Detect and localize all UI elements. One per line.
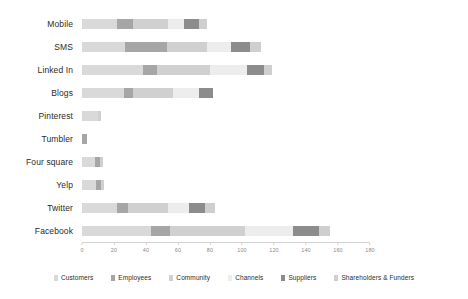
bar-segment[interactable] [98, 111, 101, 121]
bar-segment[interactable] [133, 88, 173, 98]
category-label: Pinterest [39, 111, 73, 121]
bar-segment[interactable] [170, 226, 245, 236]
tick-mark [209, 243, 210, 245]
x-axis-ticks: 020406080100120140160180 [82, 243, 370, 257]
stacked-bar[interactable] [82, 88, 213, 98]
legend-label: Employees [118, 274, 151, 281]
tick-label: 0 [80, 247, 83, 253]
bar-segment[interactable] [173, 88, 199, 98]
stacked-bar[interactable] [82, 134, 87, 144]
tick-label: 40 [143, 247, 149, 253]
bar-segment[interactable] [82, 157, 95, 167]
bar-segment[interactable] [199, 19, 207, 29]
legend-item[interactable]: Customers [54, 274, 93, 281]
legend-item[interactable]: Community [169, 274, 210, 281]
stacked-bar[interactable] [82, 111, 101, 121]
bar-row: Mobile [82, 12, 370, 35]
tick-label: 140 [301, 247, 310, 253]
bar-segment[interactable] [184, 19, 198, 29]
stacked-bar[interactable] [82, 157, 103, 167]
bar-segment[interactable] [167, 42, 207, 52]
tick-label: 120 [269, 247, 278, 253]
x-axis-tick: 120 [269, 243, 278, 253]
x-axis-tick: 60 [175, 243, 181, 253]
bar-segment[interactable] [247, 65, 265, 75]
legend-swatch-icon [281, 275, 285, 281]
stacked-bar[interactable] [82, 226, 330, 236]
stacked-bar[interactable] [82, 180, 104, 190]
bar-segment[interactable] [293, 226, 319, 236]
category-label: Facebook [35, 226, 73, 236]
bar-segment[interactable] [82, 88, 124, 98]
tick-mark [337, 243, 338, 245]
stacked-bar-chart: MobileSMSLinked InBlogsPinterestTumblerF… [0, 0, 468, 299]
bar-row: Pinterest [82, 104, 370, 127]
x-axis-tick: 160 [333, 243, 342, 253]
tick-label: 100 [237, 247, 246, 253]
legend-label: Customers [61, 274, 93, 281]
legend-swatch-icon [111, 275, 115, 281]
legend-label: Community [176, 274, 210, 281]
tick-mark [273, 243, 274, 245]
bar-segment[interactable] [82, 134, 87, 144]
bar-segment[interactable] [82, 19, 117, 29]
legend-item[interactable]: Suppliers [281, 274, 316, 281]
bar-row: Linked In [82, 58, 370, 81]
bar-segment[interactable] [82, 65, 143, 75]
bar-segment[interactable] [205, 203, 215, 213]
bar-segment[interactable] [82, 180, 96, 190]
legend-item[interactable]: Channels [228, 274, 263, 281]
bar-segment[interactable] [151, 226, 170, 236]
bar-segment[interactable] [199, 88, 213, 98]
bar-segment[interactable] [245, 226, 293, 236]
bar-segment[interactable] [125, 42, 167, 52]
bar-segment[interactable] [319, 226, 330, 236]
category-label: Mobile [47, 19, 73, 29]
bar-segment[interactable] [82, 203, 117, 213]
bar-segment[interactable] [168, 19, 184, 29]
tick-mark [113, 243, 114, 245]
bar-segment[interactable] [143, 65, 157, 75]
bar-segment[interactable] [101, 180, 104, 190]
bar-segment[interactable] [117, 203, 128, 213]
tick-label: 60 [175, 247, 181, 253]
bar-row: Yelp [82, 173, 370, 196]
stacked-bar[interactable] [82, 42, 261, 52]
bar-row: Tumbler [82, 127, 370, 150]
category-label: Yelp [56, 180, 73, 190]
legend-item[interactable]: Employees [111, 274, 151, 281]
bar-segment[interactable] [100, 157, 103, 167]
tick-label: 180 [365, 247, 374, 253]
tick-label: 20 [111, 247, 117, 253]
bar-segment[interactable] [128, 203, 168, 213]
bar-segment[interactable] [82, 111, 98, 121]
bar-segment[interactable] [133, 19, 168, 29]
bar-segment[interactable] [189, 203, 205, 213]
stacked-bar[interactable] [82, 203, 215, 213]
stacked-bar[interactable] [82, 19, 207, 29]
bar-segment[interactable] [264, 65, 272, 75]
bar-segment[interactable] [168, 203, 189, 213]
x-axis-tick: 80 [207, 243, 213, 253]
tick-mark [369, 243, 370, 245]
legend-item[interactable]: Shareholders & Funders [334, 274, 414, 281]
stacked-bar[interactable] [82, 65, 272, 75]
bar-segment[interactable] [210, 65, 247, 75]
bar-segment[interactable] [207, 42, 231, 52]
x-axis-tick: 180 [365, 243, 374, 253]
x-axis-tick: 20 [111, 243, 117, 253]
tick-label: 160 [333, 247, 342, 253]
bar-segment[interactable] [250, 42, 261, 52]
bar-row: Four square [82, 150, 370, 173]
bar-segment[interactable] [82, 226, 151, 236]
tick-label: 80 [207, 247, 213, 253]
bar-segment[interactable] [231, 42, 250, 52]
bar-segment[interactable] [82, 42, 125, 52]
category-label: Four square [26, 157, 73, 167]
legend-label: Channels [235, 274, 263, 281]
bar-segment[interactable] [124, 88, 134, 98]
plot-area: MobileSMSLinked InBlogsPinterestTumblerF… [82, 12, 370, 242]
tick-mark [305, 243, 306, 245]
bar-segment[interactable] [117, 19, 133, 29]
bar-segment[interactable] [157, 65, 210, 75]
